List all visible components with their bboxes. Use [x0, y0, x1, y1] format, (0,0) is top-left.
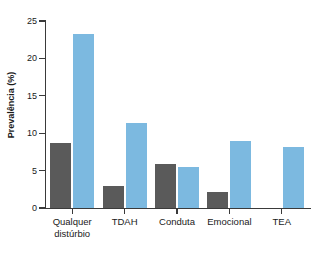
- prevalence-bar-chart: Prevalência (%) 0510152025 Qualquerdistú…: [0, 0, 319, 255]
- y-axis-tick: [39, 20, 45, 21]
- y-axis-tick: [39, 207, 45, 208]
- bar-blue-1: [126, 123, 147, 208]
- x-axis-tick: [72, 208, 73, 214]
- x-axis-tick: [176, 208, 177, 214]
- y-axis-tick-label: 15: [13, 91, 37, 101]
- x-axis-label-4: TEA: [237, 216, 319, 228]
- x-axis-label-line2: distúrbio: [27, 228, 117, 240]
- y-axis-tick-label: 20: [13, 53, 37, 63]
- bar-blue-2: [178, 167, 199, 208]
- y-axis-title: Prevalência (%): [0, 0, 22, 210]
- x-axis-tick: [281, 208, 282, 214]
- x-axis-tick: [124, 208, 125, 214]
- bar-gray-2: [155, 164, 176, 208]
- y-axis-tick-label: 25: [13, 16, 37, 26]
- bar-gray-1: [103, 186, 124, 208]
- bar-gray-3: [207, 192, 228, 208]
- x-axis-tick: [229, 208, 230, 214]
- y-axis-tick: [39, 95, 45, 96]
- x-axis-label-line1: TEA: [273, 216, 291, 227]
- bar-blue-4: [283, 147, 304, 208]
- plot-area: [46, 21, 308, 208]
- y-axis-tick: [39, 58, 45, 59]
- bar-blue-0: [73, 34, 94, 208]
- y-axis-tick: [39, 133, 45, 134]
- bar-gray-0: [50, 143, 71, 208]
- y-axis-tick: [39, 170, 45, 171]
- y-axis-tick-label: 0: [13, 203, 37, 213]
- y-axis-tick-label: 10: [13, 128, 37, 138]
- bar-blue-3: [230, 141, 251, 208]
- y-axis-tick-label: 5: [13, 166, 37, 176]
